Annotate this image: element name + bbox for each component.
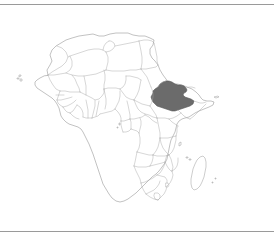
island-comoros xyxy=(186,157,191,160)
africa-mainland-outline xyxy=(35,33,214,202)
island-mascarene xyxy=(212,178,216,183)
africa-locator-map xyxy=(0,5,274,231)
island-zanzibar xyxy=(179,142,181,146)
bottom-divider-rule xyxy=(0,231,274,232)
island-socotra xyxy=(214,96,219,98)
figure-root xyxy=(0,0,274,241)
island-madagascar xyxy=(191,156,206,190)
island-cape-verde xyxy=(17,75,22,81)
